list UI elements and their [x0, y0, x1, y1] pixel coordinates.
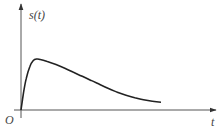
series-line-0: [21, 59, 161, 110]
series-layer: [21, 59, 161, 110]
y-axis-label: s(t): [29, 8, 45, 22]
origin-label: O: [5, 113, 14, 127]
x-axis-label: t: [211, 115, 215, 129]
chart: s(t) t O: [0, 0, 223, 135]
